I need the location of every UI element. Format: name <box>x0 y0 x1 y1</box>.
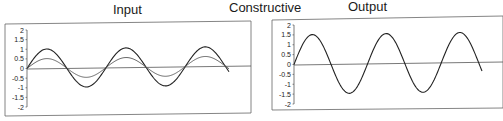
y-tick-label: -1.5 <box>279 91 291 98</box>
input-chart: 21.510.50-0.5-1-1.5-2 <box>5 21 251 116</box>
y-tick-label: -2 <box>18 104 24 111</box>
charts-canvas: 21.510.50-0.5-1-1.5-2 21.510.50-0.5-1-1.… <box>0 0 503 121</box>
y-tick-label: 0 <box>287 61 291 68</box>
y-tick-label: 1.5 <box>281 31 291 38</box>
output-chart: 21.510.50-0.5-1-1.5-2 <box>272 16 503 110</box>
y-tick-label: -0.5 <box>279 71 291 78</box>
input-y-ticks: 21.510.50-0.5-1-1.5-2 <box>12 27 27 111</box>
y-tick-label: 1 <box>287 41 291 48</box>
y-tick-label: -1.5 <box>12 94 24 101</box>
y-tick-label: -1 <box>285 81 291 88</box>
output-zero-line <box>294 62 503 65</box>
input-zero-line <box>27 66 251 69</box>
y-tick-label: 1.5 <box>14 36 24 43</box>
y-tick-label: 0.5 <box>281 51 291 58</box>
y-tick-label: -2 <box>285 101 291 108</box>
y-tick-label: -1 <box>18 84 24 91</box>
y-tick-label: 1 <box>20 46 24 53</box>
output-chart-frame <box>272 16 503 110</box>
y-tick-label: 0 <box>20 65 24 72</box>
y-tick-label: 2 <box>287 22 291 29</box>
output-y-ticks: 21.510.50-0.5-1-1.5-2 <box>279 22 294 108</box>
y-tick-label: 2 <box>20 27 24 34</box>
y-tick-label: 0.5 <box>14 55 24 62</box>
y-tick-label: -0.5 <box>12 75 24 82</box>
